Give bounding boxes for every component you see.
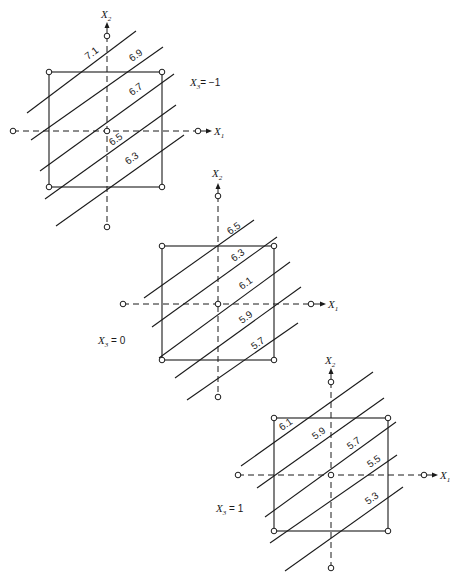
x3-level-label: X3 = 0 xyxy=(97,334,126,349)
design-point xyxy=(46,69,52,75)
contour-value-label: 5.9 xyxy=(237,308,255,325)
design-point xyxy=(195,128,201,134)
contour-value-label: 5.7 xyxy=(249,334,267,351)
x3-level-label: X3 = 1 xyxy=(215,502,244,517)
design-point xyxy=(104,128,110,134)
x1-axis-label: X1 xyxy=(213,125,224,140)
x2-axis-label: X2 xyxy=(211,167,223,182)
panels-group: 7.16.96.76.56.3X1X2X3= −16.56.36.15.95.7… xyxy=(10,8,450,571)
panel-x3-0: 6.56.36.15.95.7X1X2X3 = 0 xyxy=(97,167,338,400)
contour-value-label: 6.7 xyxy=(127,80,145,97)
x1-arrow-icon xyxy=(320,302,326,307)
contour-value-label: 6.3 xyxy=(123,149,141,166)
design-point xyxy=(421,472,427,478)
contour-line xyxy=(187,323,298,400)
panel-x3-minus-1: 7.16.96.76.56.3X1X2X3= −1 xyxy=(10,8,224,230)
design-point xyxy=(271,357,277,363)
contour-value-label: 6.1 xyxy=(237,274,255,291)
contour-value-label: 5.7 xyxy=(345,434,363,451)
design-point xyxy=(159,69,165,75)
contour-diagram: 7.16.96.76.56.3X1X2X3= −16.56.36.15.95.7… xyxy=(0,0,457,580)
design-point xyxy=(308,301,314,307)
design-point xyxy=(385,415,391,421)
design-point xyxy=(104,33,110,39)
x2-arrow-icon xyxy=(216,183,221,189)
design-point xyxy=(271,243,277,249)
design-point xyxy=(10,128,16,134)
contour-value-label: 6.5 xyxy=(225,219,243,236)
contour-line xyxy=(152,237,277,327)
design-point xyxy=(215,394,221,400)
design-point xyxy=(385,528,391,534)
design-point xyxy=(46,184,52,190)
design-point xyxy=(235,472,241,478)
design-point xyxy=(159,243,165,249)
design-point xyxy=(215,193,221,199)
x1-axis-label: X1 xyxy=(439,469,450,484)
design-point xyxy=(104,224,110,230)
design-point xyxy=(215,301,221,307)
contour-line xyxy=(285,487,403,571)
x2-axis-label: X2 xyxy=(324,354,336,369)
design-point xyxy=(159,357,165,363)
x2-axis-label: X2 xyxy=(100,8,112,23)
panel-x3-plus-1: 6.15.95.75.55.3X1X2X3 = 1 xyxy=(215,354,450,571)
x1-arrow-icon xyxy=(432,473,438,478)
design-point xyxy=(120,301,126,307)
design-point xyxy=(271,415,277,421)
contour-line xyxy=(56,135,184,226)
x1-axis-label: X1 xyxy=(327,298,338,313)
design-point xyxy=(328,379,334,385)
design-point xyxy=(159,184,165,190)
x1-arrow-icon xyxy=(206,129,212,134)
contour-line xyxy=(45,105,176,199)
contour-line xyxy=(159,262,290,358)
design-point xyxy=(271,528,277,534)
x3-level-label: X3= −1 xyxy=(189,76,221,91)
design-point xyxy=(328,472,334,478)
design-point xyxy=(328,565,334,571)
